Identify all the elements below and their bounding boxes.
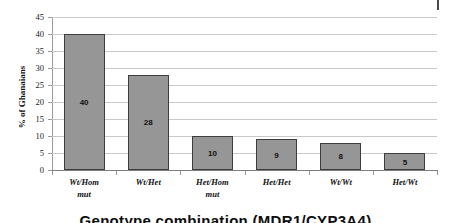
gridline [52,136,437,137]
bar: 8 [320,143,361,170]
x-axis-category-label: Het/Hommut [180,177,244,200]
gridline [52,68,437,69]
x-tick-mark [309,171,310,175]
y-tick-label: 40 [22,30,44,38]
x-axis-category-label: Wt/Het [116,177,180,189]
y-tick-label: 20 [22,98,44,106]
y-tick-label: 25 [22,81,44,89]
y-tick-label: 5 [22,149,44,157]
plot-area: 402810985 [52,17,437,170]
y-tick-label: 45 [22,13,44,21]
bar-value-label: 28 [129,118,168,127]
x-axis-category-label: Het/Wt [373,177,437,189]
bar: 9 [256,139,297,170]
x-axis-title: Genotype combination (MDR1/CYP3A4) [0,212,451,223]
gridline [52,153,437,154]
bar-value-label: 40 [65,98,104,107]
category-label-line1: Het/Wt [392,177,417,187]
bar: 5 [384,153,425,170]
x-tick-mark [245,171,246,175]
gridline [52,102,437,103]
bar: 40 [64,34,105,170]
category-label-line1: Het/Het [263,177,291,187]
bar-chart: % of Ghanaians 454035302520151050 402810… [0,0,451,223]
gridline [52,85,437,86]
category-label-line1: Wt/Wt [330,177,352,187]
x-tick-mark [180,171,181,175]
y-tick-label: 10 [22,132,44,140]
x-tick-mark [437,171,438,175]
y-tick-label: 35 [22,47,44,55]
bar-value-label: 10 [193,149,232,158]
y-tick-label: 0 [22,166,44,174]
category-label-line2: mut [180,189,244,201]
gridline [52,119,437,120]
x-tick-mark [116,171,117,175]
bar: 28 [128,75,169,170]
bar: 10 [192,136,233,170]
bar-value-label: 5 [385,158,424,167]
page-edge-mark [437,0,439,10]
bar-value-label: 9 [257,151,296,160]
x-axis-category-label: Wt/Hommut [52,177,116,200]
x-axis-category-label: Wt/Wt [309,177,373,189]
gridline [52,51,437,52]
y-tick-label: 15 [22,115,44,123]
y-tick-label: 30 [22,64,44,72]
category-label-line1: Het/Hom [196,177,229,187]
category-label-line1: Wt/Het [136,177,161,187]
bar-value-label: 8 [321,152,360,161]
category-label-line2: mut [52,189,116,201]
x-tick-mark [373,171,374,175]
x-axis-category-label: Het/Het [245,177,309,189]
gridline [52,17,437,18]
gridline [52,34,437,35]
x-tick-mark [52,171,53,175]
category-label-line1: Wt/Hom [69,177,99,187]
